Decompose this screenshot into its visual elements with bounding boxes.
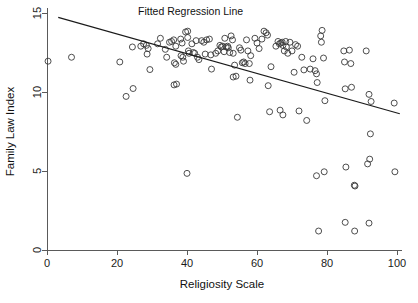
plot-canvas: 051015 020406080100 Religiosity ScaleFam… (0, 0, 418, 303)
data-point (391, 100, 397, 106)
data-point (322, 98, 328, 104)
data-points-layer (45, 27, 398, 234)
data-point (299, 54, 305, 60)
data-point (246, 61, 252, 67)
data-point (171, 60, 177, 66)
data-point (366, 91, 372, 97)
data-point (343, 164, 349, 170)
data-point (368, 98, 374, 104)
data-point (178, 36, 184, 42)
data-point (287, 39, 293, 45)
data-point (342, 219, 348, 225)
data-point (193, 38, 199, 44)
y-tick-label-0: 0 (31, 247, 43, 253)
data-point (244, 37, 250, 43)
y-tick-label-5: 5 (31, 168, 43, 174)
data-point (314, 173, 320, 179)
data-point (185, 34, 191, 40)
x-tick-label-0: 0 (44, 257, 50, 269)
data-point (392, 169, 398, 175)
y-axis: 051015 (31, 7, 47, 253)
data-point (247, 77, 253, 83)
y-axis-title: Family Law Index (4, 87, 16, 177)
y-tick-label-15: 15 (31, 7, 43, 19)
data-point (352, 228, 358, 234)
data-point (296, 108, 302, 114)
data-point (228, 33, 234, 39)
data-point (234, 114, 240, 120)
scatter-chart-figure: 051015 020406080100 Religiosity ScaleFam… (0, 0, 418, 303)
data-point (222, 35, 228, 41)
data-point (321, 169, 327, 175)
data-point (268, 64, 274, 70)
x-tick-label-20: 20 (111, 257, 123, 269)
data-point (363, 48, 369, 54)
data-point (349, 84, 355, 90)
data-point (230, 50, 236, 56)
data-point (316, 228, 322, 234)
x-tick-label-80: 80 (321, 257, 333, 269)
data-point (164, 54, 170, 60)
data-point (173, 43, 179, 49)
data-point (321, 55, 327, 61)
data-point (267, 109, 273, 115)
data-point (248, 53, 254, 59)
data-point (319, 27, 325, 33)
data-point (185, 28, 191, 34)
data-point (130, 86, 136, 92)
data-point (346, 47, 352, 53)
data-point (304, 117, 310, 123)
x-tick-label-40: 40 (181, 257, 193, 269)
data-point (144, 51, 150, 57)
data-point (341, 48, 347, 54)
data-point (259, 36, 265, 42)
x-tick-label-100: 100 (388, 257, 406, 269)
data-point (209, 66, 215, 72)
data-point (173, 61, 179, 67)
data-point (318, 33, 324, 39)
data-point (157, 35, 163, 41)
data-point (189, 41, 195, 47)
data-point (280, 112, 286, 118)
data-point (291, 69, 297, 75)
data-point (318, 39, 324, 45)
data-point (256, 46, 262, 52)
data-point (348, 61, 354, 67)
data-point (202, 51, 208, 57)
data-point (147, 67, 153, 73)
data-point (69, 54, 75, 60)
x-axis-title: Religiosity Scale (180, 278, 264, 290)
data-point (45, 58, 51, 64)
data-point (366, 220, 372, 226)
data-point (129, 44, 135, 50)
fitted-regression-line-label: Fitted Regression Line (138, 5, 243, 17)
data-point (342, 59, 348, 65)
data-point (230, 37, 236, 43)
data-point (310, 56, 316, 62)
x-axis: 020406080100 (44, 250, 406, 269)
y-tick-label-10: 10 (31, 86, 43, 98)
data-point (301, 67, 307, 73)
data-point (123, 93, 129, 99)
data-point (367, 131, 373, 137)
data-point (314, 80, 320, 86)
data-point (181, 58, 187, 64)
data-point (184, 170, 190, 176)
data-point (265, 83, 271, 89)
data-point (179, 40, 185, 46)
data-point (342, 86, 348, 92)
data-point (117, 59, 123, 65)
x-tick-label-60: 60 (251, 257, 263, 269)
